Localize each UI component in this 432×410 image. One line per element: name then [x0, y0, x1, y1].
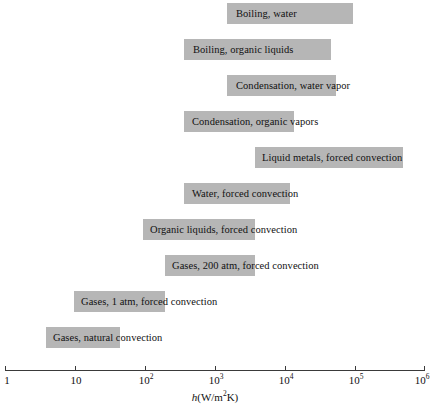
bar-label-gases-natural-convection: Gases, natural convection — [53, 327, 162, 348]
x-axis-tick-label-1e3: 103 — [209, 374, 224, 386]
bar-label-gases-200-atm-forced-convection: Gases, 200 atm, forced convection — [172, 255, 319, 276]
bar-label-boiling-organic-liquids: Boiling, organic liquids — [193, 39, 293, 60]
tick-exp-1e6: 6 — [426, 372, 430, 381]
x-axis-tick-label-1e5: 105 — [349, 374, 364, 386]
tick-base-1: 1 — [4, 374, 10, 386]
x-axis-tick-1e5 — [355, 366, 356, 370]
tick-base-1e4: 10 — [279, 374, 290, 386]
tick-base-1e2: 10 — [139, 374, 150, 386]
bar-label-liquid-metals-forced-convection: Liquid metals, forced convection — [262, 147, 402, 168]
tick-base-1e6: 10 — [415, 374, 426, 386]
x-axis-tick-label-1e6: 106 — [415, 374, 430, 386]
axis-title-units-pre: (W/m — [197, 391, 223, 403]
x-axis-tick-1e4 — [285, 366, 286, 370]
bar-label-condensation-organic-vapors: Condensation, organic vapors — [192, 111, 318, 132]
bar-label-organic-liquids-forced-convection: Organic liquids, forced convection — [150, 219, 297, 240]
tick-exp-1e3: 3 — [220, 372, 224, 381]
bar-label-condensation-water-vapor: Condensation, water vapor — [236, 75, 350, 96]
x-axis-tick-1e2 — [145, 366, 146, 370]
x-axis-tick-1e3 — [215, 366, 216, 370]
x-axis-tick-1e6 — [424, 366, 425, 370]
axis-title-units-post: K) — [227, 391, 239, 403]
x-axis-title: h(W/m2K) — [192, 391, 239, 403]
tick-exp-1e5: 5 — [360, 372, 364, 381]
x-axis-tick-10 — [75, 366, 76, 370]
bar-label-water-forced-convection: Water, forced convection — [192, 183, 298, 204]
tick-base-10: 10 — [71, 374, 82, 386]
bar-label-boiling-water: Boiling, water — [236, 3, 297, 24]
heat-transfer-coefficient-chart: Boiling, water Boiling, organic liquids … — [0, 0, 432, 410]
x-axis-tick-label-1: 1 — [4, 374, 10, 386]
x-axis-tick-label-1e2: 102 — [139, 374, 154, 386]
bar-label-gases-1-atm-forced-convection: Gases, 1 atm, forced convection — [81, 291, 217, 312]
x-axis-tick-1 — [5, 366, 6, 370]
x-axis-line — [5, 370, 425, 371]
tick-base-1e3: 10 — [209, 374, 220, 386]
tick-exp-1e2: 2 — [150, 372, 154, 381]
tick-exp-1e4: 4 — [290, 372, 294, 381]
x-axis-tick-label-1e4: 104 — [279, 374, 294, 386]
x-axis-tick-label-10: 10 — [71, 374, 82, 386]
tick-base-1e5: 10 — [349, 374, 360, 386]
